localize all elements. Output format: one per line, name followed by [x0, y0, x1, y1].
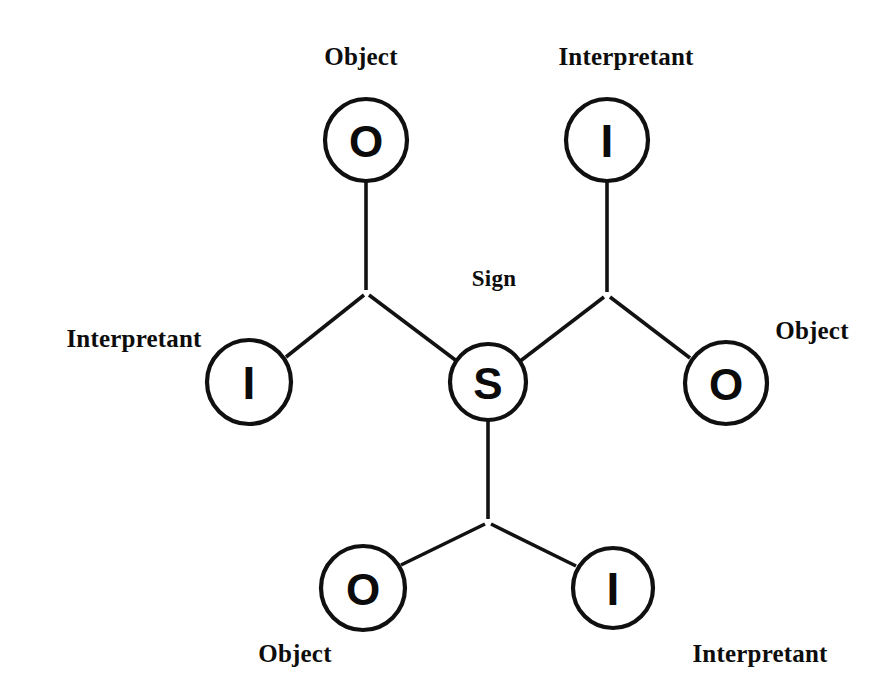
node-letter-o: O: [349, 117, 383, 166]
node-letter-i: I: [601, 115, 614, 167]
label-top-left-object: Object: [324, 44, 397, 69]
node-top-left-object[interactable]: O: [325, 99, 407, 181]
label-left-interpretant: Interpretant: [66, 326, 201, 351]
node-letter-o: O: [346, 565, 380, 614]
edge-upper-left-vertex-to-left-interpretant: [286, 295, 364, 357]
node-group: O I I S O O: [207, 99, 767, 630]
label-bottom-right-interpretant: Interpretant: [692, 641, 827, 666]
edge-lower-vertex-to-bottom-left-object: [401, 524, 485, 565]
node-top-right-interpretant[interactable]: I: [566, 99, 648, 181]
node-bottom-right-interpretant[interactable]: I: [573, 548, 653, 628]
node-left-interpretant[interactable]: I: [207, 340, 291, 424]
node-bottom-left-object[interactable]: O: [321, 546, 405, 630]
label-bottom-left-object: Object: [258, 641, 331, 666]
label-top-right-interpretant: Interpretant: [558, 44, 693, 69]
node-right-object[interactable]: O: [685, 342, 767, 424]
node-letter-s: S: [473, 359, 502, 408]
node-center-sign[interactable]: S: [450, 344, 526, 420]
edge-upper-right-vertex-to-right-object: [610, 297, 690, 358]
label-right-object: Object: [775, 318, 848, 343]
edge-upper-left-vertex-to-sign: [369, 295, 458, 362]
semiotic-triad-diagram: O I I S O O: [0, 0, 893, 688]
edge-lower-vertex-to-bottom-right-interpretant: [491, 524, 576, 566]
label-sign: Sign: [472, 267, 516, 290]
edge-upper-right-vertex-to-sign: [519, 297, 604, 362]
node-letter-i: I: [243, 357, 256, 409]
node-letter-o: O: [709, 360, 743, 409]
node-letter-i: I: [607, 563, 620, 615]
